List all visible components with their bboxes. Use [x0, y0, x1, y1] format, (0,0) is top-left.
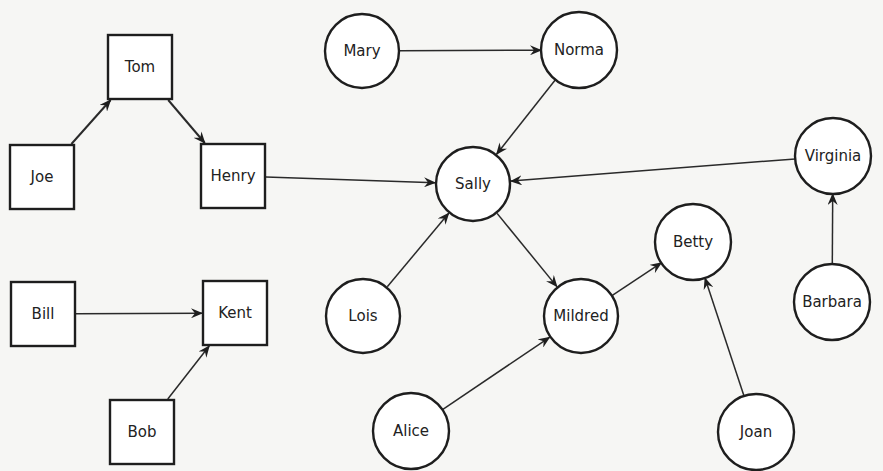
node-bill-label: Bill [32, 305, 55, 323]
node-alice-label: Alice [393, 422, 429, 440]
node-henry-label: Henry [210, 167, 255, 185]
node-tom-label: Tom [124, 58, 155, 76]
node-mary: Mary [325, 14, 399, 88]
edge-henry-to-sally [266, 177, 435, 183]
node-tom: Tom [108, 35, 172, 99]
node-bob: Bob [110, 400, 174, 464]
node-mildred: Mildred [544, 279, 618, 353]
node-norma: Norma [541, 12, 617, 88]
node-joe-label: Joe [30, 168, 54, 186]
edge-bob-to-kent [168, 346, 209, 399]
node-virginia: Virginia [795, 118, 871, 194]
node-mildred-label: Mildred [553, 307, 608, 325]
sociogram-diagram: Tom Joe Henry Bill Kent Bob Mary [0, 0, 883, 471]
node-henry: Henry [201, 144, 265, 208]
node-alice: Alice [373, 393, 449, 469]
node-kent: Kent [203, 281, 267, 345]
edge-mary-to-norma [400, 50, 541, 51]
node-betty-label: Betty [673, 233, 713, 251]
edge-joe-to-tom [71, 100, 110, 144]
node-joan: Joan [718, 394, 794, 470]
node-barbara: Barbara [794, 264, 870, 340]
node-sally: Sally [436, 147, 510, 221]
edge-tom-to-henry [168, 100, 205, 143]
node-virginia-label: Virginia [805, 147, 862, 165]
node-mary-label: Mary [343, 42, 380, 60]
node-lois: Lois [326, 279, 400, 353]
edge-mildred-to-betty [613, 263, 662, 295]
node-norma-label: Norma [554, 41, 604, 59]
node-bob-label: Bob [128, 423, 157, 441]
edge-sally-to-mildred [497, 213, 557, 286]
edge-joan-to-betty [705, 278, 744, 396]
node-bill: Bill [11, 282, 75, 346]
node-lois-label: Lois [348, 307, 377, 325]
edge-norma-to-sally [497, 80, 556, 154]
nodes-layer: Tom Joe Henry Bill Kent Bob Mary [10, 12, 871, 470]
edge-virginia-to-sally [511, 159, 795, 181]
node-betty: Betty [655, 204, 731, 280]
edge-lois-to-sally [387, 213, 448, 287]
node-joan-label: Joan [739, 423, 772, 441]
node-kent-label: Kent [218, 304, 252, 322]
node-sally-label: Sally [455, 175, 491, 193]
node-joe: Joe [10, 145, 74, 209]
edge-bill-to-kent [76, 313, 202, 314]
node-barbara-label: Barbara [802, 293, 862, 311]
edge-alice-to-mildred [443, 337, 550, 409]
